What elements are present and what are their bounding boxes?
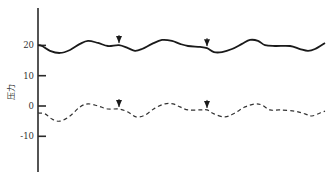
y-tick-label: 0 — [29, 101, 34, 111]
arrow-down-icon — [204, 100, 210, 108]
y-axis-title: 压力 — [6, 84, 16, 100]
series-group — [38, 40, 325, 122]
arrow-down-icon — [116, 99, 122, 107]
y-tick-label: 10 — [23, 71, 34, 81]
dashed-line — [38, 103, 325, 121]
arrow-down-icon — [116, 35, 122, 43]
arrow-down-icon — [204, 38, 210, 46]
y-ticks: 20100-10 — [20, 40, 46, 141]
y-tick-label: -10 — [20, 131, 34, 141]
solid-line — [38, 40, 325, 53]
y-tick-label: 20 — [23, 40, 34, 50]
pressure-chart: 20100-10 压力 — [0, 0, 333, 181]
